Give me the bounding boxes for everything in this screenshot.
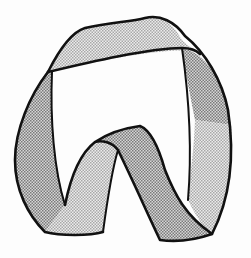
- right-band-lower: [188, 120, 232, 234]
- top-band: [48, 17, 200, 70]
- twisted-band-figure: [0, 0, 251, 258]
- left-band: [15, 70, 65, 232]
